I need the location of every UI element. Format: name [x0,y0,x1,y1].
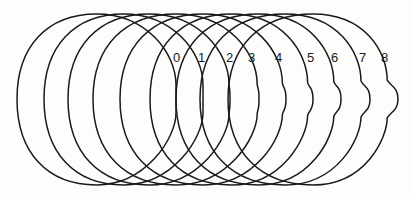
contour-label-0: 0 [173,50,180,65]
contour-label-1: 1 [198,50,205,65]
contour-canvas: 012345678 [0,0,413,198]
contour-label-4: 4 [275,50,282,65]
contour-label-5: 5 [307,50,314,65]
contour-label-6: 6 [331,50,338,65]
contour-label-8: 8 [381,50,388,65]
contour-label-2: 2 [226,50,233,65]
contour-7 [200,14,370,185]
contour-0 [17,14,176,185]
contour-label-3: 3 [248,50,255,65]
overlapping-contours-diagram: 012345678 [0,0,413,198]
contour-5 [150,14,313,185]
contour-group [17,14,398,185]
contour-label-7: 7 [359,50,366,65]
